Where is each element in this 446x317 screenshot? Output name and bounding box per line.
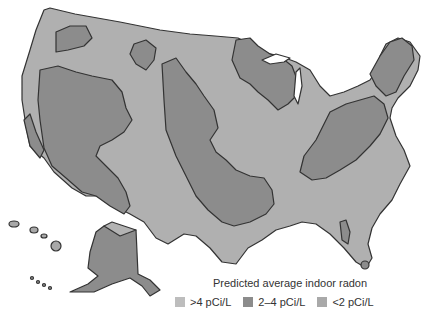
- hawaii: [9, 221, 61, 251]
- legend-label-high: >4 pCi/L: [190, 296, 231, 308]
- legend-swatch-low: [317, 297, 327, 307]
- legend-item-high: >4 pCi/L: [175, 296, 231, 308]
- legend-item-low: <2 pCi/L: [317, 296, 373, 308]
- legend-label-low: <2 pCi/L: [332, 296, 373, 308]
- region-south-florida-medium: [361, 261, 369, 269]
- aleutian-islands: [31, 277, 52, 290]
- legend-title: Predicted average indoor radon: [213, 277, 367, 289]
- legend-swatch-medium: [243, 297, 253, 307]
- radon-map: [0, 0, 446, 317]
- legend-label-medium: 2–4 pCi/L: [258, 296, 305, 308]
- legend-item-medium: 2–4 pCi/L: [243, 296, 305, 308]
- alaska: [70, 226, 160, 296]
- legend: >4 pCi/L 2–4 pCi/L <2 pCi/L: [175, 296, 386, 308]
- legend-swatch-high: [175, 297, 185, 307]
